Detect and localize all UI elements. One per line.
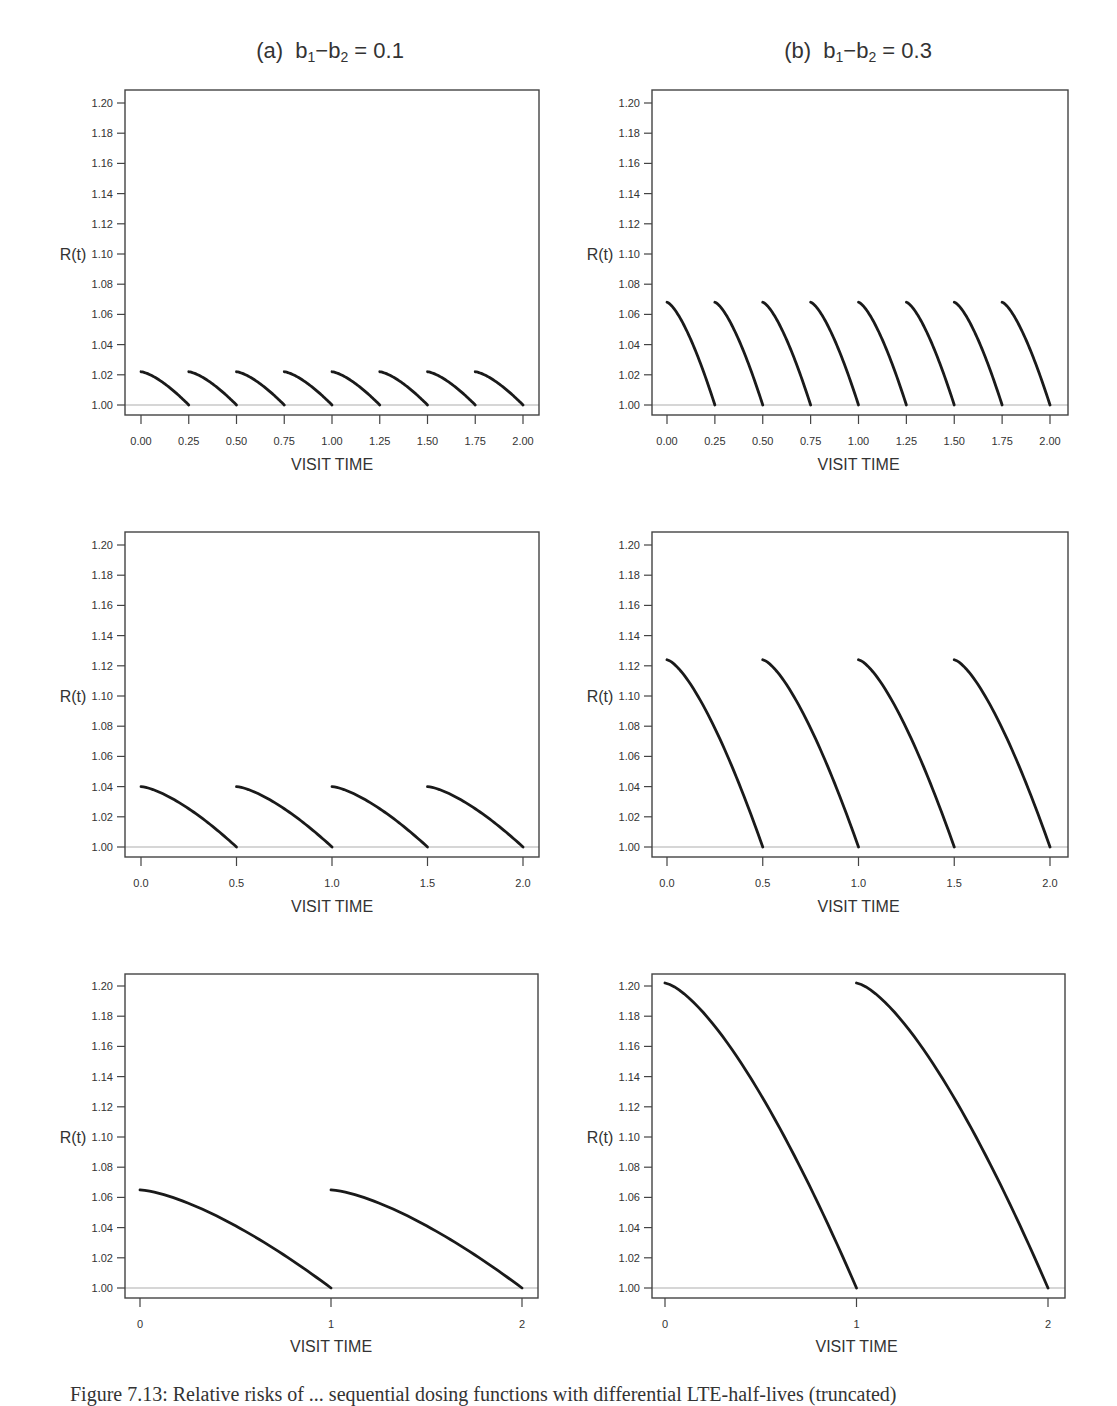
y-axis: 1.001.021.041.061.081.101.121.141.161.18… <box>92 980 125 1294</box>
x-tick-label: 0 <box>662 1318 668 1330</box>
curve-segment <box>284 372 332 405</box>
plot-frame <box>125 90 539 415</box>
chart-panel-row3-b: 1.001.021.041.061.081.101.121.141.161.18… <box>587 974 1065 1355</box>
series-curves <box>665 983 1048 1288</box>
curve-segment <box>189 372 237 405</box>
x-tick-label: 2 <box>519 1318 525 1330</box>
y-axis-label: R(t) <box>60 1129 87 1146</box>
curve-segment <box>859 660 955 847</box>
plot-frame <box>652 974 1065 1298</box>
y-tick-label: 1.16 <box>619 599 640 611</box>
chart-panel-row2-a: 1.001.021.041.061.081.101.121.141.161.18… <box>60 532 539 915</box>
y-tick-label: 1.04 <box>619 1222 640 1234</box>
curve-segment <box>141 787 237 847</box>
y-tick-label: 1.12 <box>92 1101 113 1113</box>
y-axis: 1.001.021.041.061.081.101.121.141.161.18… <box>619 97 652 411</box>
y-tick-label: 1.02 <box>619 369 640 381</box>
y-tick-label: 1.18 <box>619 127 640 139</box>
x-tick-label: 1.75 <box>465 435 486 447</box>
y-tick-label: 1.06 <box>619 1191 640 1203</box>
x-axis-label: VISIT TIME <box>817 898 899 915</box>
y-tick-label: 1.06 <box>619 750 640 762</box>
y-tick-label: 1.12 <box>619 218 640 230</box>
y-tick-label: 1.12 <box>619 1101 640 1113</box>
y-tick-label: 1.14 <box>619 188 640 200</box>
y-tick-label: 1.12 <box>92 660 113 672</box>
curve-segment <box>1002 302 1050 405</box>
y-axis-label: R(t) <box>587 246 614 263</box>
y-tick-label: 1.10 <box>92 690 113 702</box>
y-tick-label: 1.04 <box>619 339 640 351</box>
y-tick-label: 1.18 <box>619 1010 640 1022</box>
curve-segment <box>857 983 1049 1288</box>
x-tick-label: 0.75 <box>274 435 295 447</box>
y-tick-label: 1.00 <box>92 399 113 411</box>
x-axis: 012 <box>137 1298 525 1330</box>
y-tick-label: 1.08 <box>92 720 113 732</box>
y-tick-label: 1.08 <box>619 720 640 732</box>
y-tick-label: 1.10 <box>92 248 113 260</box>
plot-frame <box>125 974 538 1298</box>
x-axis-label: VISIT TIME <box>291 898 373 915</box>
curve-segment <box>859 302 907 405</box>
curve-segment <box>954 302 1002 405</box>
x-axis: 0.000.250.500.751.001.251.501.752.00 <box>656 415 1060 447</box>
curve-segment <box>954 660 1050 847</box>
y-tick-label: 1.06 <box>92 1191 113 1203</box>
y-tick-label: 1.08 <box>92 1161 113 1173</box>
y-tick-label: 1.04 <box>92 1222 113 1234</box>
x-tick-label: 1.50 <box>944 435 965 447</box>
y-tick-label: 1.14 <box>92 630 113 642</box>
curve-segment <box>237 787 333 847</box>
y-tick-label: 1.08 <box>92 278 113 290</box>
y-tick-label: 1.14 <box>92 188 113 200</box>
x-tick-label: 0.25 <box>704 435 725 447</box>
y-tick-label: 1.00 <box>619 399 640 411</box>
x-axis-label: VISIT TIME <box>817 456 899 473</box>
x-axis-label: VISIT TIME <box>291 456 373 473</box>
x-tick-label: 2.00 <box>1039 435 1060 447</box>
chart-panel-row1-a: 1.001.021.041.061.081.101.121.141.161.18… <box>60 90 539 473</box>
x-tick-label: 0.25 <box>178 435 199 447</box>
y-tick-label: 1.04 <box>619 781 640 793</box>
y-tick-label: 1.10 <box>92 1131 113 1143</box>
y-tick-label: 1.04 <box>92 781 113 793</box>
x-tick-label: 1 <box>328 1318 334 1330</box>
y-axis: 1.001.021.041.061.081.101.121.141.161.18… <box>92 97 125 411</box>
x-axis: 0.000.250.500.751.001.251.501.752.00 <box>130 415 533 447</box>
y-tick-label: 1.20 <box>92 980 113 992</box>
x-tick-label: 1.25 <box>896 435 917 447</box>
x-tick-label: 0.00 <box>130 435 151 447</box>
x-tick-label: 2 <box>1045 1318 1051 1330</box>
y-tick-label: 1.18 <box>92 1010 113 1022</box>
chart-panel-row3-a: 1.001.021.041.061.081.101.121.141.161.18… <box>60 974 538 1355</box>
x-tick-label: 0.0 <box>659 877 674 889</box>
y-tick-label: 1.10 <box>619 690 640 702</box>
y-tick-label: 1.12 <box>619 660 640 672</box>
x-tick-label: 1.5 <box>947 877 962 889</box>
x-axis-label: VISIT TIME <box>290 1338 372 1355</box>
series-curves <box>141 787 523 847</box>
curve-segment <box>380 372 428 405</box>
y-tick-label: 1.02 <box>92 811 113 823</box>
y-tick-label: 1.02 <box>92 1252 113 1264</box>
y-tick-label: 1.14 <box>619 1071 640 1083</box>
y-tick-label: 1.16 <box>92 1040 113 1052</box>
curve-segment <box>715 302 763 405</box>
x-tick-label: 2.0 <box>1042 877 1057 889</box>
y-tick-label: 1.08 <box>619 1161 640 1173</box>
y-axis-label: R(t) <box>60 246 87 263</box>
x-tick-label: 1.0 <box>851 877 866 889</box>
curve-segment <box>331 1190 522 1288</box>
x-tick-label: 0 <box>137 1318 143 1330</box>
x-tick-label: 1.00 <box>848 435 869 447</box>
y-tick-label: 1.00 <box>619 841 640 853</box>
curve-segment <box>140 1190 331 1288</box>
y-tick-label: 1.08 <box>619 278 640 290</box>
curve-segment <box>428 787 524 847</box>
y-tick-label: 1.12 <box>92 218 113 230</box>
y-tick-label: 1.16 <box>619 1040 640 1052</box>
y-axis-label: R(t) <box>587 688 614 705</box>
y-tick-label: 1.16 <box>619 157 640 169</box>
curve-segment <box>141 372 189 405</box>
